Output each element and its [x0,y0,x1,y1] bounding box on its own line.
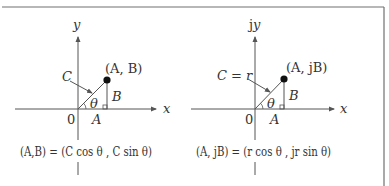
y-axis-label: y [72,17,81,32]
opposite-label: B [111,89,122,104]
point-label: (A, jB) [286,60,327,75]
x-axis-label: x [163,101,171,116]
origin-label: 0 [67,112,75,127]
x-axis-label: x [340,101,348,116]
opposite-label: B [288,88,299,103]
point-label: (A, B) [105,61,142,76]
point-marker [280,75,287,82]
hypotenuse-label: C [62,69,72,84]
angle-label: θ [267,96,275,111]
right-angle-marker [103,105,107,109]
origin-label: 0 [245,112,253,127]
hypotenuse-label: C = r [217,68,253,83]
equation: (A, jB) = (r cos θ , jr sin θ) [196,144,331,159]
jy-axis-label: y [252,17,261,32]
equation: (A,B) = (C cos θ , C sin θ) [20,144,152,159]
adjacent-label: A [269,112,279,127]
angle-arc [84,103,86,109]
adjacent-label: A [91,112,101,127]
right-panel: j y x 0 (A, jB) C = r θ B A (A, jB) = (r… [191,17,348,175]
point-marker [103,76,110,83]
angle-arc [261,103,263,109]
left-panel: y x 0 (A, B) C θ B A (A,B) = (C cos θ , … [15,17,171,175]
angle-label: θ [90,96,98,111]
right-angle-marker [280,105,284,109]
c-pointer-arrow [70,81,92,93]
polar-coordinates-diagram: y x 0 (A, B) C θ B A (A,B) = (C cos θ , … [0,0,389,186]
